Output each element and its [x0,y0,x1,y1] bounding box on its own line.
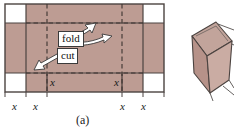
box-bottom-corner-line [210,93,213,101]
box-back-edge-lower [223,86,234,95]
figure-panel-a: fold cut x x x x x x (a) [0,0,234,132]
box-bottom-edge-right [229,80,234,88]
folded-box-3d [0,0,234,132]
